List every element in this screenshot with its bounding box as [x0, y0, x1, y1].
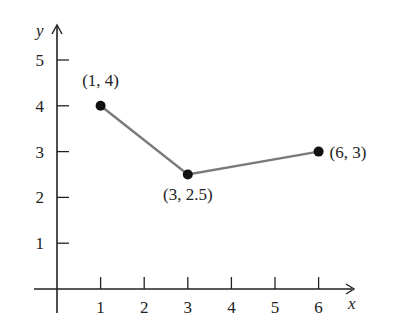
x-tick-label: 1: [96, 298, 105, 317]
line-chart: y x 123456 12345 (1, 4)(3, 2.5)(6, 3): [0, 0, 393, 335]
y-tick-label: 5: [36, 51, 45, 70]
data-point-label: (1, 4): [82, 71, 119, 90]
data-point-label: (6, 3): [330, 143, 367, 162]
data-series: [101, 106, 319, 175]
data-point-label: (3, 2.5): [163, 185, 213, 204]
data-point-marker: [314, 147, 324, 157]
x-axis-label: x: [347, 294, 356, 313]
data-point-marker: [183, 170, 193, 180]
x-tick-label: 5: [271, 298, 280, 317]
y-tick-label: 3: [36, 143, 45, 162]
data-points: (1, 4)(3, 2.5)(6, 3): [82, 71, 366, 204]
x-tick-label: 3: [184, 298, 193, 317]
axes: y x: [34, 21, 356, 313]
y-tick-label: 1: [36, 234, 45, 253]
x-ticks: 123456: [96, 277, 323, 317]
x-tick-label: 4: [227, 298, 236, 317]
x-tick-label: 2: [140, 298, 149, 317]
series-line: [101, 106, 319, 175]
y-ticks: 12345: [36, 51, 70, 253]
y-tick-label: 4: [36, 97, 45, 116]
x-tick-label: 6: [314, 298, 323, 317]
data-point-marker: [96, 101, 106, 111]
y-axis-label: y: [34, 21, 44, 40]
y-tick-label: 2: [36, 188, 45, 207]
